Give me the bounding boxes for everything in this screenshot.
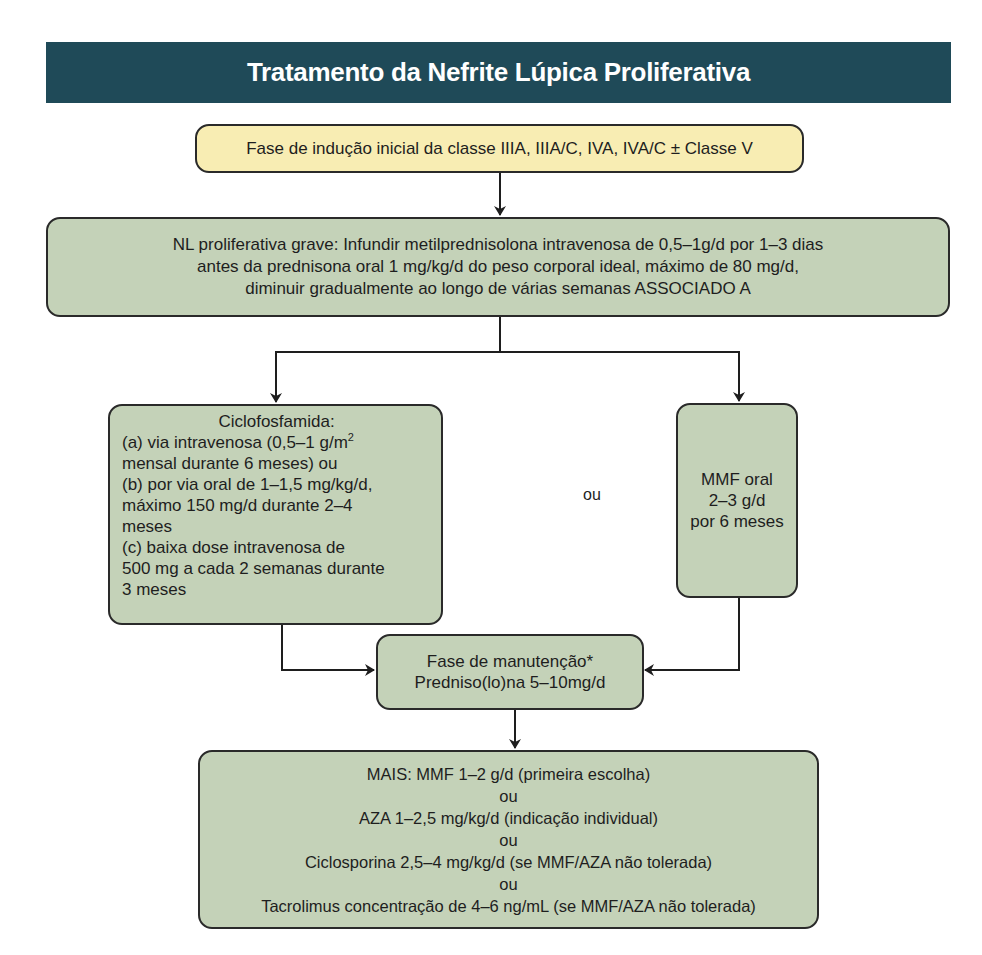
arrow-cyclo-to-maintenance	[282, 624, 374, 670]
induction-text: Fase de indução inicial da classe IIIA, …	[246, 138, 753, 159]
cyclo-line-c: (c) baixa dose intravenosa de	[122, 537, 345, 558]
severe-line-1: NL proliferativa grave: Infundir metilpr…	[173, 234, 824, 256]
cyclo-line-5: meses	[122, 516, 172, 537]
cyclo-line-4: máximo 150 mg/d durante 2–4	[122, 495, 353, 516]
cyclo-line-b: (b) por via oral de 1–1,5 mg/kg/d,	[122, 474, 372, 495]
maintenance-line-2: Predniso(lo)na 5–10mg/d	[415, 672, 606, 693]
cyclo-line-7: 500 mg a cada 2 semanas durante	[122, 558, 385, 579]
node-induction-phase: Fase de indução inicial da classe IIIA, …	[195, 124, 804, 173]
node-cyclophosphamide: Ciclofosfamida: (a) via intravenosa (0,5…	[108, 404, 443, 625]
plus-line-aza: AZA 1–2,5 mg/kg/d (indicação individual)	[359, 807, 658, 829]
plus-line-tacrolimus: Tacrolimus concentração de 4–6 ng/mL (se…	[261, 895, 756, 917]
node-plus-options: MAIS: MMF 1–2 g/d (primeira escolha) ou …	[198, 750, 819, 929]
plus-line-1: MAIS: MMF 1–2 g/d (primeira escolha)	[367, 763, 650, 785]
cyclo-superscript: 2	[348, 431, 354, 443]
node-mmf-oral: MMF oral 2–3 g/d por 6 meses	[676, 403, 798, 598]
mmf-line-3: por 6 meses	[690, 511, 784, 532]
cyclo-line-2: mensal durante 6 meses) ou	[122, 453, 337, 474]
cyclo-line-8: 3 meses	[122, 579, 186, 600]
severe-line-2: antes da prednisona oral 1 mg/kg/d do pe…	[197, 256, 799, 278]
severe-line-3: diminuir gradualmente ao longo de várias…	[245, 278, 751, 300]
or-label: ou	[583, 486, 601, 504]
maintenance-line-1: Fase de manutenção*	[427, 651, 593, 672]
mmf-line-1: MMF oral	[701, 469, 773, 490]
arrow-to-cyclophosphamide	[276, 352, 500, 402]
node-maintenance-phase: Fase de manutenção* Predniso(lo)na 5–10m…	[376, 634, 644, 710]
plus-or-2: ou	[499, 829, 517, 851]
arrow-to-mmf	[500, 352, 739, 401]
plus-or-3: ou	[499, 873, 517, 895]
arrow-mmf-to-maintenance	[645, 597, 739, 670]
cyclo-title: Ciclofosfamida:	[218, 411, 334, 432]
plus-line-ciclosporina: Ciclosporina 2,5–4 mg/kg/d (se MMF/AZA n…	[305, 851, 712, 873]
node-severe-proliferative: NL proliferativa grave: Infundir metilpr…	[46, 217, 950, 317]
plus-or-1: ou	[499, 785, 517, 807]
mmf-line-2: 2–3 g/d	[709, 490, 766, 511]
cyclo-line-a: (a) via intravenosa (0,5–1 g/m2	[122, 432, 354, 453]
